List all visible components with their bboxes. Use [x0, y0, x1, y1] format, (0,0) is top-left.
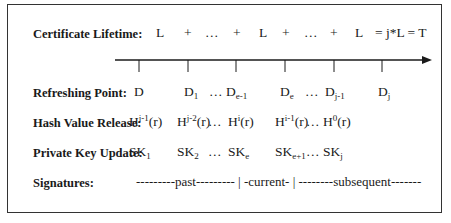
- ellipsis: …: [209, 84, 223, 100]
- refresh-point-dj-1: Dj-1: [325, 84, 345, 100]
- lifetime-term: +: [330, 25, 338, 41]
- refresh-point-dj: Dj: [378, 84, 390, 100]
- private-key-ske1: SKe+1: [275, 144, 306, 160]
- private-key-skj: SKj: [323, 144, 343, 160]
- private-key-update-label: Private Key Update:: [33, 145, 143, 161]
- refreshing-point-label: Refreshing Point:: [33, 85, 127, 101]
- hash-value-hj-1: Hj-1(r): [129, 114, 162, 130]
- ellipsis: …: [208, 114, 222, 130]
- refresh-point-de: De: [280, 84, 294, 100]
- lifetime-term: +: [233, 25, 241, 41]
- private-key-sk2: SK2: [177, 144, 199, 160]
- private-key-sk1: SK1: [129, 144, 151, 160]
- hash-value-hj-2: Hj-2(r): [177, 114, 210, 130]
- lifetime-term: …: [205, 25, 219, 41]
- lifetime-term: +: [184, 25, 192, 41]
- certificate-lifetime-label: Certificate Lifetime:: [33, 26, 142, 42]
- refresh-point-d: D: [134, 84, 144, 100]
- hash-value-release-label: Hash Value Release:: [33, 115, 141, 131]
- lifetime-term: L: [355, 25, 363, 41]
- hash-value-hi: Hi(r): [228, 114, 254, 130]
- arrow-head-icon: [422, 56, 432, 64]
- refresh-point-d1: D1: [184, 84, 198, 100]
- lifetime-total: = j*L = T: [375, 25, 427, 41]
- hash-value-hi-1: Hi-1(r): [275, 114, 308, 130]
- refresh-point-de-1: De-1: [226, 84, 247, 100]
- lifetime-term: …: [304, 25, 318, 41]
- signatures-periods: ---------past--------- | -current- | ---…: [136, 174, 421, 190]
- ellipsis: …: [306, 144, 320, 160]
- lifetime-term: +: [282, 25, 290, 41]
- ellipsis: …: [208, 144, 222, 160]
- lifetime-term: L: [259, 25, 267, 41]
- private-key-ske: SKe: [228, 144, 249, 160]
- ellipsis: …: [306, 114, 320, 130]
- lifetime-term: L: [156, 25, 164, 41]
- signatures-label: Signatures:: [33, 175, 94, 191]
- ellipsis: …: [305, 84, 319, 100]
- hash-value-h0: H0(r): [323, 114, 351, 130]
